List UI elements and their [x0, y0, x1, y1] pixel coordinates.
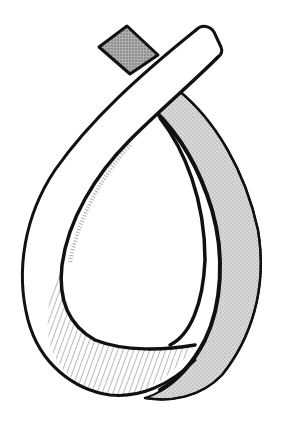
- ribbon-front-band: [22, 26, 221, 395]
- ribbon-loop-drawing: [0, 0, 289, 430]
- ribbon-top-end: [99, 26, 158, 74]
- ribbon-illustration: Looped twisted ribbon (Möbius-style stri…: [0, 0, 289, 430]
